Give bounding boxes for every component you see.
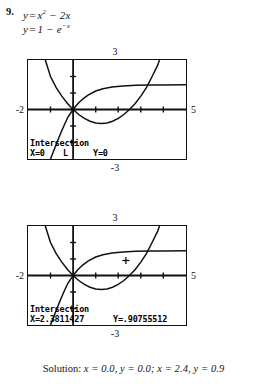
problem-number: 9. xyxy=(6,5,23,18)
calc-2-top-label: 3 xyxy=(47,212,183,223)
equation-2: y=1 − e−x xyxy=(23,22,71,36)
equals-sign-2: = xyxy=(28,23,37,35)
equation-2-exponent: −x xyxy=(62,22,70,30)
calc-1-readout-x: X=0 xyxy=(30,149,63,159)
solution-values: x = 0.0, y = 0.0; x = 2.4, y = 0.9 xyxy=(84,363,225,374)
equation-1: y=x2 − 2x xyxy=(23,5,71,22)
calc-1-top-label: 3 xyxy=(47,46,183,57)
solution-label: Solution: xyxy=(43,363,82,374)
equation-1-exponent: 2 xyxy=(43,8,47,16)
intersection-cursor xyxy=(122,257,129,264)
calculator-screen-1-block: 3 -2 xyxy=(0,46,267,173)
solution-line: Solution: x = 0.0, y = 0.0; x = 2.4, y =… xyxy=(0,362,267,375)
calc-1-readout: Intersection X=0 L Y=0 xyxy=(30,139,186,158)
problem-statement: 9. y=x2 − 2x y=1 − e−x xyxy=(6,5,261,36)
parabola-curve xyxy=(45,226,160,290)
calc-1-bottom-label: -3 xyxy=(47,162,183,173)
calc-1-readout-title: Intersection xyxy=(30,139,186,149)
calculator-screen-2[interactable]: Intersection X=2.3811427 Y=.90755512 xyxy=(27,225,187,326)
parabola-curve xyxy=(45,60,160,124)
calc-2-readout-x: X=2.3811427 xyxy=(30,315,113,325)
equation-1-rhs-tail: − 2x xyxy=(49,9,70,21)
calc-2-readout: Intersection X=2.3811427 Y=.90755512 xyxy=(30,305,186,324)
calc-1-readout-y: Y=0 xyxy=(93,149,108,159)
calc-2-bottom-label: -3 xyxy=(47,328,183,339)
equation-list: y=x2 − 2x y=1 − e−x xyxy=(23,5,71,36)
equation-2-rhs: 1 − e xyxy=(38,23,62,35)
calc-1-left-label: -2 xyxy=(0,104,27,115)
calc-1-right-label: 5 xyxy=(187,104,215,115)
equals-sign: = xyxy=(28,9,37,21)
calc-2-readout-y: Y=.90755512 xyxy=(113,315,167,325)
calculator-screen-2-block: 3 -2 xyxy=(0,212,267,339)
calc-2-left-label: -2 xyxy=(0,270,27,281)
calculator-screen-1[interactable]: Intersection X=0 L Y=0 xyxy=(27,59,187,160)
calc-2-right-label: 5 xyxy=(187,270,215,281)
calc-1-readout-cursor-mark: L xyxy=(63,149,93,159)
